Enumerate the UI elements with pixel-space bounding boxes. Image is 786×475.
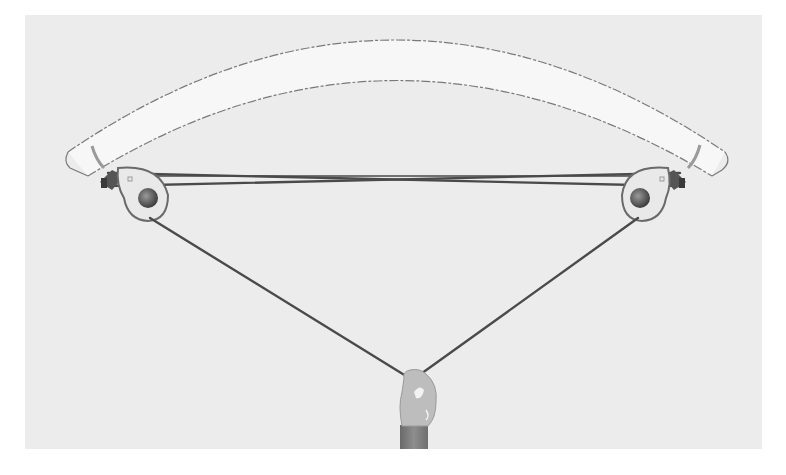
figure-canvas (0, 0, 786, 475)
upper-cables (108, 173, 680, 186)
sleeve (400, 425, 428, 449)
hand (400, 370, 436, 450)
bow-limb (66, 40, 728, 176)
right-pulley (622, 168, 686, 221)
right-axle-icon (630, 188, 650, 208)
left-axle-icon (138, 188, 158, 208)
drawstring (150, 218, 638, 376)
bow-mechanism-illustration (0, 0, 786, 475)
